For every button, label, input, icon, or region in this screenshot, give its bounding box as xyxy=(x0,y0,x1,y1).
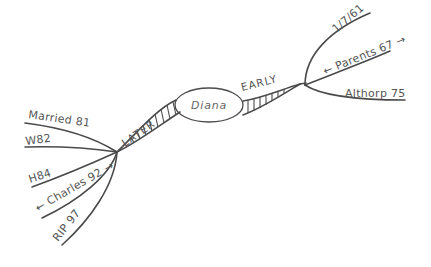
later-child-label-1: W82 xyxy=(25,132,52,148)
later-child-label-0: Married 81 xyxy=(28,108,92,130)
early-child-label-0: 1/7/61 xyxy=(330,1,367,35)
early-child-label-2: Althorp 75 xyxy=(345,87,406,100)
early-child-althorp[interactable]: Althorp 75 xyxy=(305,85,406,100)
later-child-w82[interactable]: W82 xyxy=(25,132,117,152)
center-label: Diana xyxy=(191,99,227,112)
mind-map: Diana EARLY 1/7/61 ← Parents 67 → Althor… xyxy=(0,0,431,267)
early-child-parents[interactable]: ← Parents 67 → xyxy=(305,33,408,85)
center-node[interactable]: Diana xyxy=(175,88,243,122)
early-child-label-1: ← Parents 67 → xyxy=(321,33,408,78)
hatch-early xyxy=(248,89,284,113)
branch-later[interactable]: LATER Married 81 W82 H84 ← Charles 92 → … xyxy=(25,100,180,245)
later-child-label-4: RIP 97 xyxy=(50,207,83,244)
later-child-charles[interactable]: ← Charles 92 → xyxy=(33,152,117,218)
branch-label-later: LATER xyxy=(119,117,157,149)
later-child-label-2: H84 xyxy=(27,166,53,186)
branch-early[interactable]: EARLY 1/7/61 ← Parents 67 → Althorp 75 xyxy=(240,1,408,115)
branch-label-early: EARLY xyxy=(240,72,279,93)
